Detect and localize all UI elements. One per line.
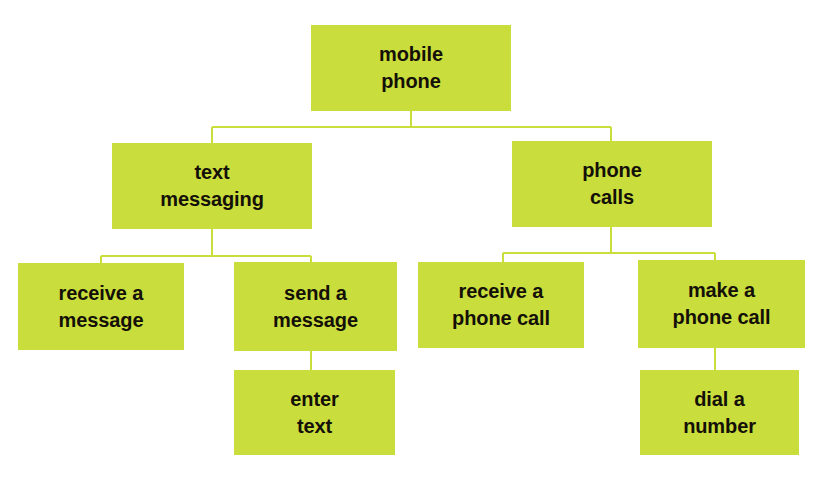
edge-mobile-phone-to-children — [212, 111, 611, 143]
hierarchy-diagram: mobile phone text messaging phone calls … — [0, 0, 824, 477]
node-phone-calls[interactable]: phone calls — [512, 141, 712, 227]
edge-phone-calls-to-children — [503, 227, 715, 262]
node-label: enter text — [284, 386, 344, 440]
node-label: receive a phone call — [446, 278, 556, 332]
node-label: dial a number — [677, 386, 762, 440]
node-receive-a-message[interactable]: receive a message — [18, 263, 184, 350]
node-make-a-phone-call[interactable]: make a phone call — [638, 260, 805, 348]
node-label: receive a message — [53, 280, 150, 334]
node-dial-a-number[interactable]: dial a number — [640, 370, 799, 455]
node-mobile-phone[interactable]: mobile phone — [311, 25, 511, 111]
node-label: mobile phone — [373, 41, 449, 95]
node-text-messaging[interactable]: text messaging — [112, 143, 312, 229]
edge-text-messaging-to-children — [101, 229, 311, 264]
node-label: make a phone call — [667, 277, 777, 331]
node-receive-a-phone-call[interactable]: receive a phone call — [418, 262, 584, 348]
node-label: text messaging — [154, 159, 270, 213]
node-label: phone calls — [576, 157, 648, 211]
node-label: send a message — [267, 280, 364, 334]
node-enter-text[interactable]: enter text — [234, 370, 395, 455]
node-send-a-message[interactable]: send a message — [234, 262, 397, 351]
